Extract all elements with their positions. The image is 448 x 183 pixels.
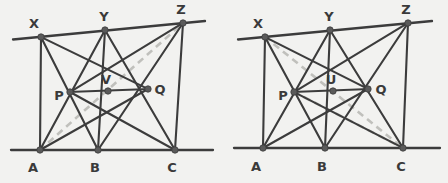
right-figure [234,20,440,151]
segment-X-A [263,36,265,150]
segment-P-C [69,91,177,150]
point-B [322,145,328,151]
segment-Y-A [262,29,330,150]
point-label-Q: Q [154,83,165,96]
point-label-C: C [396,160,406,173]
point-label-P: P [54,89,64,102]
segment-Z-C [403,22,408,150]
point-label-A: A [28,161,38,174]
point-Y [327,27,333,33]
point-U [330,88,336,94]
point-label-P: P [278,89,288,102]
point-Q [145,86,151,92]
point-label-Z: Z [176,3,185,16]
point-label-Y: Y [324,10,333,23]
point-label-Y: Y [99,10,108,23]
point-B [95,147,101,153]
point-label-Q: Q [375,83,386,96]
point-label-X: X [29,17,39,30]
point-C [400,145,406,151]
point-P [291,89,297,95]
point-label-B: B [90,161,100,174]
point-label-V: V [101,73,111,86]
point-P [67,89,73,95]
point-label-Z: Z [401,3,410,16]
point-Z [405,20,411,26]
point-label-X: X [253,17,263,30]
diagram-canvas: XYZPVQABCXYZPUQABC [0,0,448,183]
point-X [38,34,44,40]
left-figure [11,20,213,153]
segment-Z-C [175,22,183,152]
point-A [260,145,266,151]
point-C [172,147,178,153]
point-label-U: U [326,73,337,86]
point-Y [102,27,108,33]
point-label-A: A [251,160,261,173]
segment-X-A [40,36,41,152]
segment-Y-B [325,29,330,150]
point-label-C: C [167,161,177,174]
point-V [105,88,111,94]
point-label-B: B [317,160,327,173]
point-X [262,34,268,40]
point-Q [365,86,371,92]
point-A [37,147,43,153]
point-Z [180,20,186,26]
segment-X-Q [40,36,150,89]
